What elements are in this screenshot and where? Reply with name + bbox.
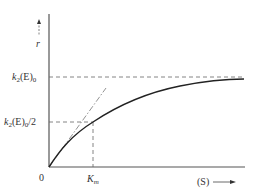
michaelis-menten-plot — [0, 0, 262, 194]
half-vmax-label: k2(E)0/2 — [4, 117, 36, 130]
origin-label: 0 — [39, 173, 44, 183]
vmax-label: k2(E)0 — [12, 72, 36, 85]
x-axis-label: (S) — [197, 177, 209, 187]
half-tail: /2 — [28, 116, 36, 127]
km-sub: m — [94, 178, 99, 186]
y-axis-label: r — [36, 39, 40, 49]
vmax-sub0: 0 — [33, 76, 37, 84]
x-axis-arrow-icon — [213, 180, 236, 184]
y-axis-arrow-icon — [37, 19, 41, 36]
half-rest: (E) — [12, 116, 25, 127]
vmax-rest: (E) — [20, 71, 33, 82]
km-label: Km — [87, 174, 99, 187]
rate-curve — [49, 79, 244, 167]
km-main: K — [87, 173, 94, 184]
